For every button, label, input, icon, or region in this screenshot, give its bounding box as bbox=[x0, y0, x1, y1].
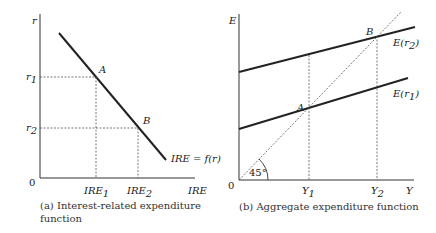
r1-label: r1 bbox=[26, 71, 37, 85]
point-b-label: B bbox=[142, 115, 150, 126]
panel-a-y-label: r bbox=[32, 15, 38, 26]
y2-label: Y2 bbox=[371, 185, 384, 199]
ire2-label: IRE2 bbox=[126, 185, 152, 199]
angle-label: 45° bbox=[249, 167, 267, 178]
y1-label: Y1 bbox=[302, 185, 315, 199]
panel-b-x-label: Y bbox=[406, 185, 414, 196]
ire-curve bbox=[59, 33, 166, 160]
e-r2-line bbox=[239, 27, 415, 72]
panel-a-x-label: IRE bbox=[187, 185, 207, 196]
panel-a-caption-line1: (a) Interest-related expenditure bbox=[40, 199, 230, 212]
r2-label: r2 bbox=[26, 122, 37, 136]
panel-a-caption-line2: function bbox=[40, 212, 230, 225]
point-b-label-b: B bbox=[365, 26, 373, 37]
e-r1-label: E(r1) bbox=[392, 88, 419, 102]
e-r1-line bbox=[239, 78, 408, 129]
ire1-label: IRE1 bbox=[83, 185, 109, 199]
panel-a-origin: 0 bbox=[29, 177, 35, 188]
panel-b: E A B E(r2) E(r1) 45° 0 Y1 Y2 Y bbox=[228, 12, 419, 199]
panel-a-caption: (a) Interest-related expenditure functio… bbox=[40, 199, 230, 225]
point-a-label-b: A bbox=[296, 102, 304, 113]
panel-b-y-label: E bbox=[228, 15, 237, 26]
curve-label: IRE = f(r) bbox=[170, 153, 221, 164]
e-r2-label: E(r2) bbox=[392, 37, 419, 51]
panel-a: r r1 r2 A B IRE = f(r) 0 IRE1 IRE2 IRE bbox=[26, 14, 221, 199]
panel-b-origin: 0 bbox=[228, 180, 234, 191]
panel-b-caption: (b) Aggregate expenditure function bbox=[239, 200, 436, 213]
point-a-label: A bbox=[98, 64, 106, 75]
